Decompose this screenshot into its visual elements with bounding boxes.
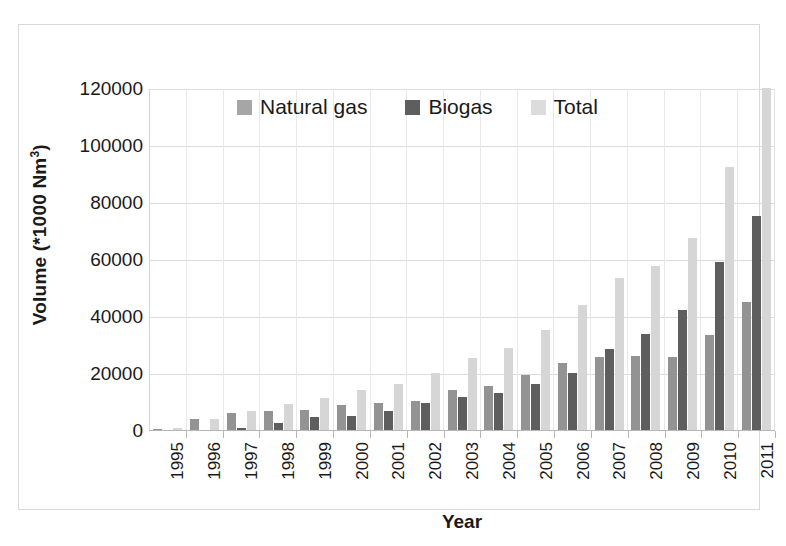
- x-label-cell: 2011: [739, 438, 776, 510]
- x-label-cell: 2006: [555, 438, 592, 510]
- x-label-cell: 2004: [481, 438, 518, 510]
- bar-group: [628, 89, 665, 430]
- bar: [347, 416, 356, 430]
- bar-groups: [150, 89, 774, 430]
- x-axis-tick: [187, 431, 224, 438]
- x-axis-tick: [518, 431, 555, 438]
- legend-item-biogas: Biogas: [405, 95, 492, 119]
- bar: [173, 428, 182, 430]
- bar: [357, 390, 366, 430]
- x-tick-label: 1995: [168, 442, 188, 480]
- bar: [605, 349, 614, 430]
- x-axis-tick: [666, 431, 703, 438]
- bar: [641, 334, 650, 430]
- bar: [431, 373, 440, 430]
- y-tick-label: 100000: [80, 135, 143, 157]
- x-tick-label: 2009: [684, 442, 704, 480]
- legend-swatch-icon: [531, 100, 546, 115]
- x-tick-label: 2007: [610, 442, 630, 480]
- plot-right-border: [774, 89, 775, 431]
- x-label-cell: 1998: [260, 438, 297, 510]
- bar-group: [334, 89, 371, 430]
- y-tick-label: 40000: [90, 306, 143, 328]
- bar-group: [297, 89, 334, 430]
- legend-swatch-icon: [405, 100, 420, 115]
- bar: [568, 373, 577, 430]
- bar-group: [407, 89, 444, 430]
- x-label-cell: 1999: [297, 438, 334, 510]
- bar: [210, 419, 219, 430]
- bar: [504, 348, 513, 430]
- bar: [394, 384, 403, 430]
- x-axis-tick: [445, 431, 482, 438]
- bar: [558, 363, 567, 430]
- x-tick-label: 1998: [279, 442, 299, 480]
- bar: [531, 384, 540, 430]
- x-tick-label: 2005: [537, 442, 557, 480]
- x-label-cell: 2003: [445, 438, 482, 510]
- bar-group: [665, 89, 702, 430]
- bar-group: [591, 89, 628, 430]
- bar: [762, 88, 771, 430]
- x-label-cell: 2005: [518, 438, 555, 510]
- bar: [484, 386, 493, 430]
- chart-legend: Natural gas Biogas Total: [237, 95, 598, 119]
- bar-group: [701, 89, 738, 430]
- bar: [458, 397, 467, 430]
- x-axis-ticks: [150, 431, 776, 438]
- y-tick-label: 0: [132, 420, 143, 442]
- x-axis-tick: [629, 431, 666, 438]
- plot-area: [149, 89, 775, 431]
- x-axis-tick: [481, 431, 518, 438]
- x-tick-label: 1996: [205, 442, 225, 480]
- bar: [651, 266, 660, 430]
- x-label-cell: 2008: [629, 438, 666, 510]
- bar: [310, 417, 319, 430]
- x-label-cell: 2002: [408, 438, 445, 510]
- bar: [227, 413, 236, 430]
- legend-item-total: Total: [531, 95, 598, 119]
- x-label-cell: 2000: [334, 438, 371, 510]
- y-axis-tick-labels: 120000 100000 80000 60000 40000 20000 0: [59, 25, 151, 445]
- x-tick-label: 1999: [316, 442, 336, 480]
- bar: [678, 310, 687, 430]
- y-tick-label: 20000: [90, 363, 143, 385]
- x-axis-tick: [371, 431, 408, 438]
- bar: [374, 403, 383, 430]
- bar: [247, 411, 256, 430]
- bar: [421, 403, 430, 430]
- y-tick-label: 80000: [90, 192, 143, 214]
- bar-group: [481, 89, 518, 430]
- bar-group: [187, 89, 224, 430]
- x-axis-title: Year: [149, 511, 775, 533]
- x-axis-tick-labels: 1995199619971998199920002001200220032004…: [150, 438, 776, 510]
- bar: [284, 404, 293, 431]
- bar: [337, 405, 346, 430]
- bar: [578, 305, 587, 430]
- x-axis-tick: [408, 431, 445, 438]
- bar-group: [444, 89, 481, 430]
- x-label-cell: 2009: [666, 438, 703, 510]
- bar: [541, 330, 550, 430]
- legend-item-natural-gas: Natural gas: [237, 95, 367, 119]
- legend-label: Biogas: [428, 95, 492, 119]
- x-label-cell: 1995: [150, 438, 187, 510]
- x-tick-label: 2004: [500, 442, 520, 480]
- bar: [153, 429, 162, 430]
- legend-label: Natural gas: [260, 95, 367, 119]
- x-label-cell: 1996: [187, 438, 224, 510]
- bar: [668, 357, 677, 430]
- x-tick-label: 2000: [353, 442, 373, 480]
- x-label-cell: 1997: [224, 438, 261, 510]
- x-axis-tick: [150, 431, 187, 438]
- x-tick-label: 2003: [463, 442, 483, 480]
- x-tick-label: 1997: [242, 442, 262, 480]
- bar: [725, 167, 734, 430]
- x-axis-tick: [555, 431, 592, 438]
- bar: [274, 423, 283, 430]
- y-tick-label: 120000: [80, 78, 143, 100]
- bar: [595, 357, 604, 430]
- bar: [264, 411, 273, 430]
- bar-group: [150, 89, 187, 430]
- bar-group: [260, 89, 297, 430]
